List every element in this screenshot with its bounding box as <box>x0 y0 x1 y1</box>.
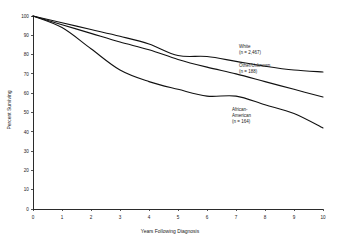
series-line-african-american <box>33 16 323 128</box>
series-label-other-unknown: Other/Unknown (n = 188) <box>239 63 271 74</box>
x-axis-title: Years Following Diagnosis <box>141 228 200 234</box>
svg-text:0: 0 <box>32 215 35 220</box>
svg-text:100: 100 <box>21 14 29 19</box>
svg-text:20: 20 <box>24 168 30 173</box>
svg-text:30: 30 <box>24 149 30 154</box>
svg-text:American: American <box>232 113 252 118</box>
svg-text:1: 1 <box>61 215 64 220</box>
svg-text:10: 10 <box>24 187 30 192</box>
svg-text:3: 3 <box>119 215 122 220</box>
svg-text:4: 4 <box>148 215 151 220</box>
series-label-african-american: African- American (n = 164) <box>232 107 252 124</box>
svg-text:90: 90 <box>24 33 30 38</box>
svg-text:7: 7 <box>235 215 238 220</box>
svg-text:6: 6 <box>206 215 209 220</box>
x-axis-tick-labels: 012345678910 <box>32 215 326 220</box>
chart-canvas: 0102030405060708090100 012345678910 Year… <box>0 0 341 239</box>
svg-text:9: 9 <box>293 215 296 220</box>
survival-curve-figure: 0102030405060708090100 012345678910 Year… <box>0 0 341 239</box>
svg-text:70: 70 <box>24 72 30 77</box>
svg-text:60: 60 <box>24 91 30 96</box>
svg-text:50: 50 <box>24 110 30 115</box>
svg-text:10: 10 <box>320 215 326 220</box>
y-axis-title: Percent Surviving <box>6 90 12 129</box>
axis-tick-marks <box>31 16 323 211</box>
series-line-white <box>33 16 323 72</box>
svg-text:Other/Unknown: Other/Unknown <box>239 63 271 68</box>
svg-text:2: 2 <box>90 215 93 220</box>
y-axis-tick-labels: 0102030405060708090100 <box>21 14 29 212</box>
svg-text:0: 0 <box>26 207 29 212</box>
svg-text:40: 40 <box>24 130 30 135</box>
svg-text:80: 80 <box>24 52 30 57</box>
svg-text:8: 8 <box>264 215 267 220</box>
svg-text:(n = 2,467): (n = 2,467) <box>239 50 261 55</box>
svg-text:White: White <box>239 44 251 49</box>
series-label-white: White (n = 2,467) <box>239 44 261 55</box>
svg-text:5: 5 <box>177 215 180 220</box>
svg-text:(n = 188): (n = 188) <box>239 69 258 74</box>
svg-text:(n = 164): (n = 164) <box>232 119 251 124</box>
series-line-other-unknown <box>33 16 323 97</box>
svg-text:African-: African- <box>232 107 248 112</box>
